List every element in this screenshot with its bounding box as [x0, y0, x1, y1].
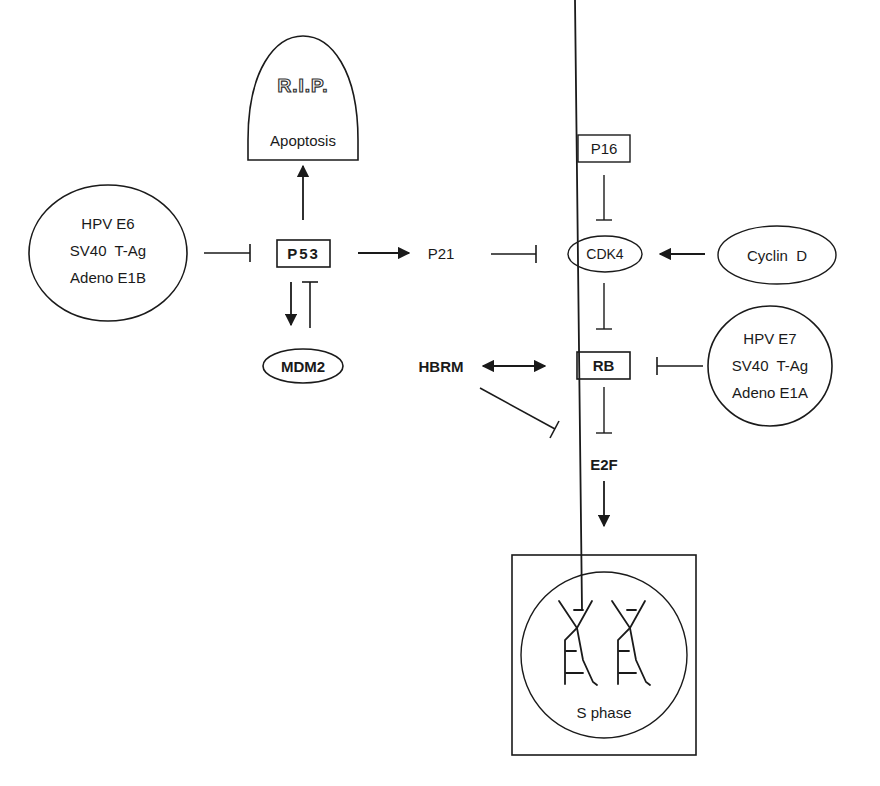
- viral-left-line-3: Adeno E1B: [70, 269, 146, 286]
- apoptosis-tombstone: R.I.P. Apoptosis: [248, 36, 358, 160]
- viral-right-line-1: HPV E7: [743, 330, 796, 347]
- p21-label: P21: [428, 245, 455, 262]
- mdm2-node: MDM2: [263, 349, 343, 383]
- rb-node: RB: [577, 352, 630, 379]
- rip-title: R.I.P.: [277, 75, 328, 96]
- p16-node: P16: [578, 135, 630, 162]
- viral-left-line-1: HPV E6: [81, 215, 134, 232]
- p53-label: P53: [287, 245, 320, 262]
- cyclin-d-node: Cyclin D: [718, 226, 836, 284]
- viral-right-line-3: Adeno E1A: [732, 384, 808, 401]
- cdk4-label: CDK4: [586, 246, 624, 262]
- rb-inhibits-e2f: [596, 387, 612, 433]
- pathway-diagram: R.I.P. Apoptosis HPV E6 SV40 T-Ag Adeno …: [0, 0, 880, 786]
- mdm2-label: MDM2: [281, 358, 325, 375]
- rb-label: RB: [593, 357, 615, 374]
- hbrm-label: HBRM: [419, 358, 464, 375]
- viral-left-line-2: SV40 T-Ag: [70, 242, 146, 259]
- viral-right-inhibits-rb: [657, 357, 703, 375]
- viral-left-inhibits-p53: [204, 244, 250, 262]
- cdk4-node: CDK4: [568, 236, 642, 272]
- viral-right-line-2: SV40 T-Ag: [732, 357, 808, 374]
- viral-oncoproteins-e6-ellipse: HPV E6 SV40 T-Ag Adeno E1B: [29, 185, 187, 321]
- mdm2-inhibits-p53: [302, 282, 318, 328]
- p53-node: P53: [277, 240, 330, 267]
- p16-label: P16: [591, 140, 618, 157]
- p21-inhibits-cdk4: [491, 245, 536, 263]
- hbrm-inhibits-e2f: [480, 388, 559, 438]
- p16-inhibits-cdk4: [596, 175, 612, 220]
- s-phase-label: S phase: [576, 704, 631, 721]
- e2f-label: E2F: [590, 456, 618, 473]
- viral-oncoproteins-e7-ellipse: HPV E7 SV40 T-Ag Adeno E1A: [708, 306, 832, 426]
- apoptosis-label: Apoptosis: [270, 132, 336, 149]
- cyclin-d-label: Cyclin D: [747, 247, 807, 264]
- cdk4-inhibits-rb: [596, 283, 612, 329]
